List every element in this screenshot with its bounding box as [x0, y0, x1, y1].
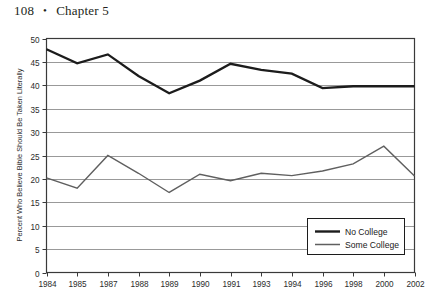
y-axis-tick-label: 30	[30, 129, 40, 138]
y-axis-tick-label: 20	[30, 176, 40, 185]
y-axis-tick-label: 10	[30, 223, 40, 232]
x-axis-tick-label: 1996	[314, 280, 333, 289]
y-axis-tick-label: 15	[30, 199, 40, 208]
series-line-some-college	[47, 146, 415, 192]
y-axis-tick-label: 5	[35, 246, 40, 255]
y-axis-title: Percent Who Believe Bible Should Be Take…	[15, 68, 24, 241]
chart-canvas: 05101520253035404550 1984198519871988198…	[0, 0, 436, 301]
x-axis-tick-label: 2000	[375, 280, 394, 289]
line-chart-figure: 05101520253035404550 1984198519871988198…	[0, 0, 436, 301]
x-axis-tick-label: 1991	[222, 280, 241, 289]
x-axis-tick-label: 1984	[38, 280, 57, 289]
x-axis-tick-label: 1994	[283, 280, 302, 289]
series-group	[47, 49, 415, 192]
x-axis-tick-labels-group: 1984198519871988198919901991199319941996…	[38, 280, 425, 289]
x-axis-tick-label: 1998	[344, 280, 363, 289]
x-axis-ticks-group	[48, 273, 416, 277]
legend-box-group: No College Some College	[308, 219, 405, 255]
legend-label-some-college: Some College	[345, 240, 399, 250]
y-axis-tick-labels-group: 05101520253035404550	[30, 36, 40, 279]
x-axis-tick-label: 1985	[68, 280, 87, 289]
x-axis-tick-label: 1990	[191, 280, 210, 289]
series-line-no-college	[47, 49, 415, 93]
y-axis-tick-label: 45	[30, 59, 40, 68]
x-axis-tick-label: 1988	[130, 280, 149, 289]
y-axis-tick-label: 35	[30, 106, 40, 115]
x-axis-tick-label: 2002	[406, 280, 425, 289]
legend-label-no-college: No College	[345, 227, 388, 237]
x-axis-tick-label: 1993	[252, 280, 271, 289]
y-axis-tick-label: 40	[30, 82, 40, 91]
y-axis-tick-label: 25	[30, 153, 40, 162]
y-axis-tick-label: 50	[30, 36, 40, 45]
x-axis-tick-label: 1987	[99, 280, 118, 289]
x-axis-tick-label: 1989	[160, 280, 179, 289]
y-axis-tick-label: 0	[35, 270, 40, 279]
